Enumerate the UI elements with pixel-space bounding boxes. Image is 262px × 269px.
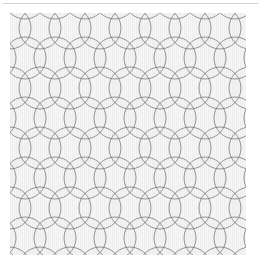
- circle-lattice-layer: [10, 13, 246, 255]
- horizontal-rule: [3, 3, 258, 4]
- overlapping-circles-pattern-graphic: [10, 13, 246, 255]
- page-root: [0, 0, 262, 269]
- pattern-swatch: [10, 13, 246, 255]
